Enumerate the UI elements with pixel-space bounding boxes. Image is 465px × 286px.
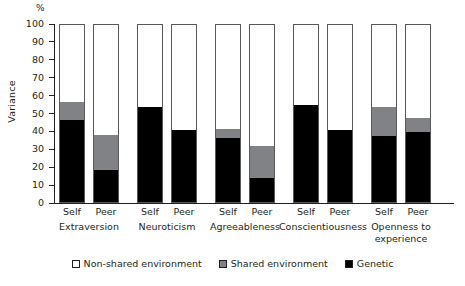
- x-axis-group-label: Agreeableness: [200, 221, 290, 233]
- x-axis-rater-label: Peer: [398, 206, 438, 217]
- bar-segment-shared: [60, 102, 84, 120]
- y-axis-tick: [49, 167, 54, 168]
- legend-swatch-nonshared: [72, 260, 80, 268]
- y-axis-tick: [49, 77, 54, 78]
- bar-segment-genetic: [216, 138, 240, 202]
- y-axis-unit-label: %: [36, 3, 45, 13]
- x-axis-line: [54, 203, 454, 204]
- x-axis-group-label: Extraversion: [44, 221, 134, 233]
- y-axis-tick: [49, 59, 54, 60]
- y-axis-tick: [49, 149, 54, 150]
- bar-segment-shared: [94, 135, 118, 170]
- y-axis-tick: [49, 41, 54, 42]
- y-axis-tick-label: 30: [14, 144, 44, 154]
- y-axis-tick: [49, 131, 54, 132]
- y-axis-tick-label: 20: [14, 162, 44, 172]
- y-axis-tick-label: 90: [14, 37, 44, 47]
- y-axis-tick-label: 60: [14, 91, 44, 101]
- legend-label: Shared environment: [231, 258, 328, 269]
- y-axis-tick-label: 40: [14, 126, 44, 136]
- bar-stack: [59, 24, 85, 203]
- legend-label: Non-shared environment: [84, 258, 202, 269]
- bar-stack: [137, 24, 163, 203]
- bar-stack: [405, 24, 431, 203]
- y-axis-tick: [49, 24, 54, 25]
- y-axis-tick-label: 100: [14, 19, 44, 29]
- chart-legend: Non-shared environmentShared environment…: [0, 258, 465, 269]
- variance-stacked-bar-chart: % Variance 1009080706050403020100 SelfPe…: [0, 0, 465, 286]
- bar-segment-genetic: [328, 130, 352, 202]
- bar-segment-genetic: [250, 178, 274, 202]
- bar-stack: [171, 24, 197, 203]
- bar-segment-shared: [406, 118, 430, 132]
- bar-stack: [249, 24, 275, 203]
- bar-segment-genetic: [60, 120, 84, 202]
- bar-stack: [215, 24, 241, 203]
- bar-segment-shared: [216, 129, 240, 138]
- y-axis-tick: [49, 203, 54, 204]
- bar-segment-genetic: [138, 107, 162, 202]
- bar-stack: [93, 24, 119, 203]
- bar-stack: [327, 24, 353, 203]
- bar-stack: [293, 24, 319, 203]
- bar-segment-genetic: [94, 170, 118, 202]
- bar-segment-genetic: [406, 132, 430, 202]
- y-axis-tick-label: 50: [14, 109, 44, 119]
- x-axis-rater-label: Peer: [86, 206, 126, 217]
- legend-swatch-genetic: [345, 260, 353, 268]
- x-axis-rater-label: Peer: [242, 206, 282, 217]
- legend-label: Genetic: [357, 258, 394, 269]
- legend-swatch-shared: [219, 260, 227, 268]
- bar-segment-shared: [250, 146, 274, 178]
- y-axis-tick-label: 10: [14, 180, 44, 190]
- legend-item: Non-shared environment: [72, 258, 202, 269]
- x-axis-group-label: Neuroticism: [122, 221, 212, 233]
- y-axis-tick: [49, 113, 54, 114]
- y-axis-tick: [49, 185, 54, 186]
- bar-segment-genetic: [372, 136, 396, 202]
- y-axis-tick: [49, 95, 54, 96]
- legend-item: Genetic: [345, 258, 394, 269]
- plot-area: [55, 24, 454, 203]
- y-axis-tick-label: 0: [14, 198, 44, 208]
- x-axis-rater-label: Peer: [320, 206, 360, 217]
- y-axis-tick-label: 80: [14, 55, 44, 65]
- bar-stack: [371, 24, 397, 203]
- legend-item: Shared environment: [219, 258, 328, 269]
- bar-segment-shared: [372, 107, 396, 136]
- x-axis-group-label: Openness toexperience: [356, 221, 446, 244]
- x-axis-group-label: Conscientiousness: [278, 221, 368, 233]
- bar-segment-genetic: [172, 130, 196, 202]
- y-axis-tick-label: 70: [14, 73, 44, 83]
- bar-segment-genetic: [294, 105, 318, 202]
- x-axis-rater-label: Peer: [164, 206, 204, 217]
